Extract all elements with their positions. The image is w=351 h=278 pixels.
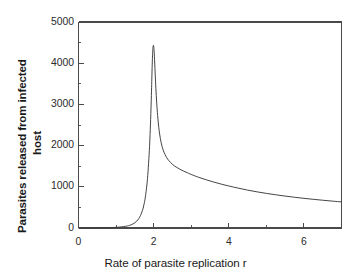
chart-figure: Parasites released from infected host 01… (0, 0, 351, 278)
data-series (79, 45, 342, 228)
plot-area (0, 0, 351, 278)
axes (79, 22, 342, 228)
series-line (79, 45, 342, 228)
